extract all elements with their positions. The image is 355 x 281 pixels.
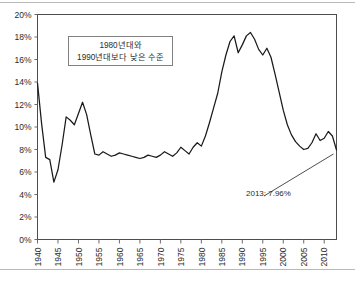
- y-tick-label: 12%: [14, 100, 31, 110]
- x-tick-label: 1950: [74, 247, 84, 266]
- y-tick-label: 0%: [19, 235, 32, 245]
- y-tick-label: 2%: [19, 212, 32, 222]
- x-tick-label: 1980: [197, 247, 207, 266]
- x-tick-label: 1965: [135, 247, 145, 266]
- annotation-line-2: 1990년대보다 낮은 수준: [77, 52, 164, 62]
- x-tick-label: 1945: [53, 247, 63, 266]
- x-tick-label: 2010: [319, 247, 329, 266]
- line-chart-svg: 20%18%16%14%12%10%8%6%4%2%0% 19401945195…: [0, 0, 355, 281]
- y-tick-label: 14%: [14, 77, 31, 87]
- x-tick-label: 1985: [217, 247, 227, 266]
- x-tick-label: 1975: [176, 247, 186, 266]
- x-tick-label: 1940: [33, 247, 43, 266]
- x-tick-label: 1955: [94, 247, 104, 266]
- y-tick-label: 16%: [14, 55, 31, 65]
- y-tick-label: 20%: [14, 10, 31, 20]
- y-tick-label: 10%: [14, 122, 31, 132]
- x-tick-label: 1995: [258, 247, 268, 266]
- y-tick-label: 18%: [14, 32, 31, 42]
- x-axis-ticks: [38, 240, 325, 244]
- x-tick-label: 1970: [156, 247, 166, 266]
- y-tick-label: 6%: [19, 167, 32, 177]
- x-tick-label: 2005: [299, 247, 309, 266]
- x-tick-label: 2000: [278, 247, 288, 266]
- x-tick-label: 1990: [237, 247, 247, 266]
- x-axis-tick-labels: 1940194519501955196019651970197519801985…: [33, 247, 330, 266]
- y-tick-label: 4%: [19, 190, 32, 200]
- x-tick-label: 1960: [115, 247, 125, 266]
- annotation-line-1: 1980년대와: [99, 40, 141, 50]
- annotation-callout: 1980년대와 1990년대보다 낮은 수준: [69, 37, 173, 66]
- chart-figure: 20%18%16%14%12%10%8%6%4%2%0% 19401945195…: [0, 0, 355, 281]
- endpoint-value-label: 2013: 7.96%: [246, 189, 291, 198]
- y-tick-label: 8%: [19, 145, 32, 155]
- y-axis-tick-labels: 20%18%16%14%12%10%8%6%4%2%0%: [14, 10, 31, 245]
